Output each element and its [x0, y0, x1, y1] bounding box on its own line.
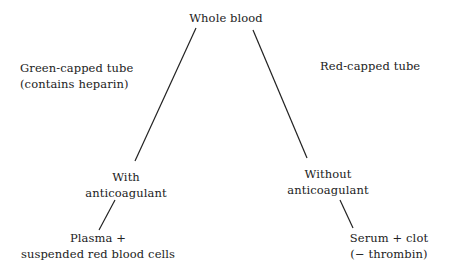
without-line1: Without — [287, 166, 368, 182]
edge-without-to-serum — [340, 200, 353, 228]
with-line1: With — [85, 169, 166, 185]
plasma-line2: suspended red blood cells — [21, 246, 175, 262]
node-without-anticoagulant: Without anticoagulant — [287, 166, 368, 198]
red-tube-label: Red-capped tube — [320, 58, 420, 74]
serum-line2: (− thrombin) — [350, 246, 428, 262]
node-with-anticoagulant: With anticoagulant — [85, 169, 166, 201]
edge-with-to-plasma — [99, 200, 115, 230]
node-plasma: Plasma + suspended red blood cells — [21, 230, 175, 262]
edge-root-to-with — [135, 28, 196, 161]
green-tube-label-line2: (contains heparin) — [20, 76, 133, 92]
node-serum: Serum + clot (− thrombin) — [350, 230, 428, 262]
without-line2: anticoagulant — [287, 182, 368, 198]
serum-line1: Serum + clot — [350, 230, 428, 246]
green-tube-label-line1: Green-capped tube — [20, 60, 133, 76]
green-tube-label: Green-capped tube (contains heparin) — [20, 60, 133, 92]
edge-root-to-without — [253, 30, 307, 158]
plasma-line1: Plasma + — [21, 230, 175, 246]
with-line2: anticoagulant — [85, 185, 166, 201]
node-whole-blood: Whole blood — [189, 10, 263, 26]
